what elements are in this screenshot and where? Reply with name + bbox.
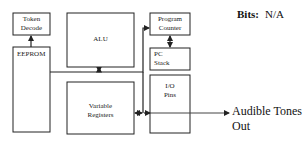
variable-registers-line2: Registers: [67, 111, 134, 120]
bits-value: N/A: [265, 8, 284, 20]
io-pins-line2: Pins: [150, 91, 190, 100]
io-pins-label: I/O Pins: [150, 82, 190, 100]
pc-stack-line1: PC: [154, 50, 170, 59]
bits-indicator: Bits:N/A: [237, 8, 284, 20]
audio-output-line1: Audible Tones: [232, 104, 302, 119]
variable-registers-line1: Variable: [67, 102, 134, 111]
io-pins-line1: I/O: [150, 82, 190, 91]
pc-stack-label: PC Stack: [154, 50, 170, 68]
alu-label: ALU: [67, 35, 134, 44]
bits-label: Bits:: [237, 8, 259, 20]
token-decode-line1: Token: [13, 15, 50, 24]
audio-output-line2: Out: [232, 119, 302, 134]
alu-line1: ALU: [67, 35, 134, 44]
pc-stack-line2: Stack: [154, 59, 170, 68]
program-counter-line2: Counter: [150, 24, 190, 33]
program-counter-line1: Program: [150, 15, 190, 24]
eeprom-label: EEPROM: [17, 50, 45, 59]
program-counter-label: Program Counter: [150, 15, 190, 33]
token-decode-line2: Decode: [13, 24, 50, 33]
token-decode-label: Token Decode: [13, 15, 50, 33]
eeprom-box: [13, 47, 50, 132]
eeprom-line1: EEPROM: [17, 50, 45, 59]
variable-registers-label: Variable Registers: [67, 102, 134, 120]
audio-output-label: Audible Tones Out: [232, 104, 302, 134]
